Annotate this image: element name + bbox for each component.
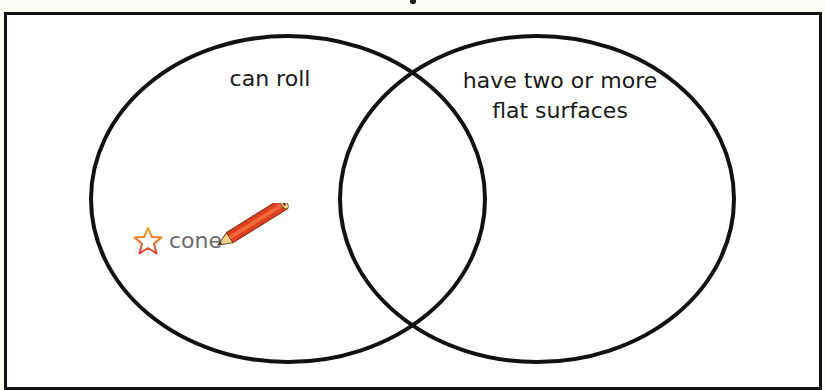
- set-label-can-roll: can roll: [200, 64, 340, 94]
- set-label-line-1: have two or more: [440, 66, 680, 96]
- star-outline-icon: [133, 226, 163, 256]
- venn-diagram-page: can roll have two or more flat surfaces …: [0, 0, 825, 390]
- item-cone: cone: [133, 226, 222, 256]
- pencil-icon: [212, 203, 292, 251]
- venn-diagram: [0, 0, 825, 390]
- set-label-flat-surfaces: have two or more flat surfaces: [440, 66, 680, 126]
- set-label-line-2: flat surfaces: [440, 96, 680, 126]
